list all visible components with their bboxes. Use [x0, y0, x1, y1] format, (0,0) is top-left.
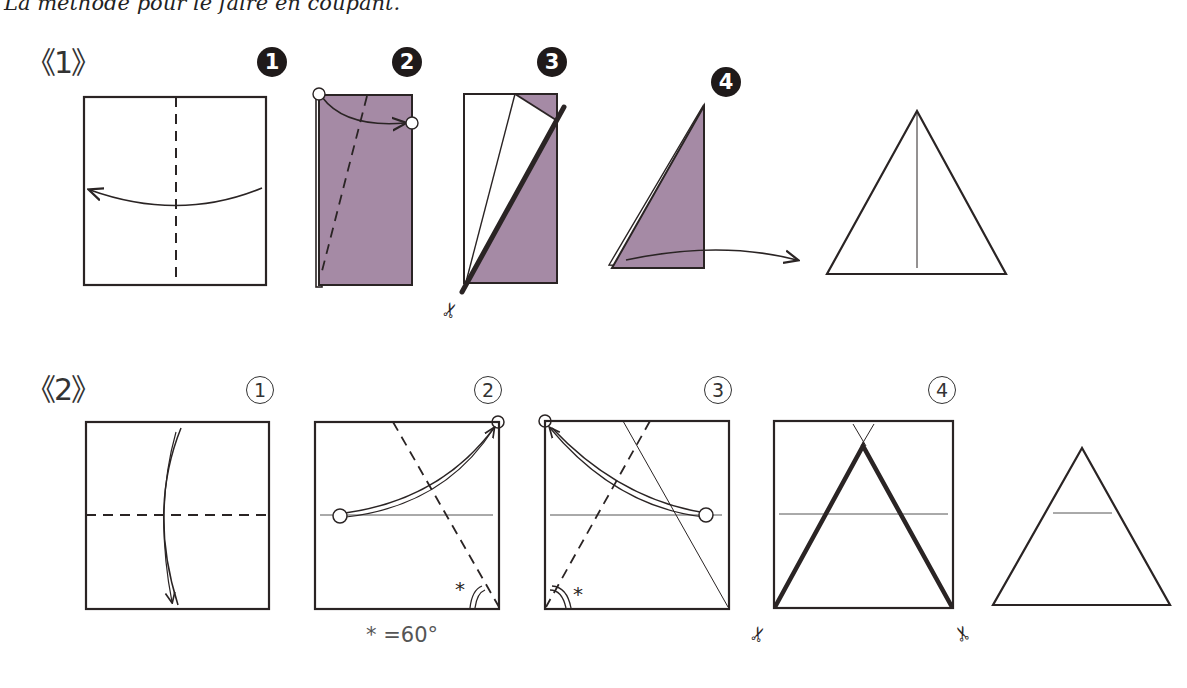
diagram-2-2: *: [315, 416, 504, 609]
svg-text:*: *: [455, 577, 465, 601]
diagram-1-3: ✂: [436, 94, 564, 322]
svg-text:*: *: [573, 582, 583, 606]
folding-diagram: ✂ *: [0, 0, 1187, 688]
scissors-icon: ✂: [436, 298, 464, 322]
diagram-2-1: [86, 422, 269, 609]
diagram-2-result: [993, 448, 1170, 605]
scissors-icon: ✂: [744, 622, 772, 646]
diagram-1-2: [313, 88, 418, 287]
diagram-1-1: [84, 97, 266, 285]
scissors-icon: ✂: [948, 621, 976, 645]
diagram-2-4: ✂ ✂: [744, 421, 976, 646]
diagram-1-result: [827, 111, 1006, 274]
diagram-1-4: [609, 106, 797, 268]
diagram-2-3: *: [539, 415, 729, 609]
